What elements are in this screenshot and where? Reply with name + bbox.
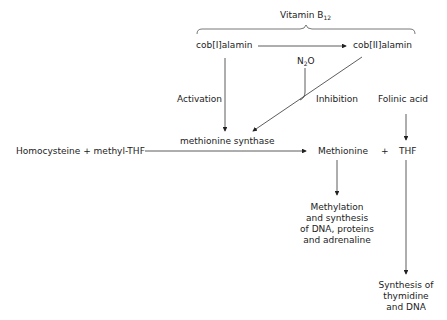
folinic-acid-label: Folinic acid [378,94,428,105]
inhibition-label: Inhibition [316,94,358,105]
vitamin-b12-subscript: 12 [324,14,332,21]
thymidine-outcome: Synthesis of thymidine and DNA [370,280,442,313]
thf-label: THF [399,146,416,157]
cob1-alamin: cob[I]alamin [196,40,252,51]
plus-sign: + [381,146,389,157]
vitamin-b12-text: Vitamin B [280,10,324,20]
cob2-alamin: cob[II]alamin [353,40,412,51]
n2o-o: O [308,56,315,66]
methionine-label: Methionine [318,146,368,157]
n2o-label: N2O [297,56,315,67]
thymidine-line-3: and DNA [370,302,442,313]
n2o-n: N [297,56,304,66]
thymidine-line-2: thymidine [370,291,442,302]
methylation-line-1: Methylation [290,202,384,213]
substrate-label: Homocysteine + methyl-THF [16,146,145,157]
methylation-line-4: and adrenaline [290,235,384,246]
vitamin-b12-brace [197,25,415,34]
activation-label: Activation [177,94,222,105]
n2o-connector [300,68,305,100]
enzyme-label: methionine synthase [180,136,275,147]
methylation-outcome: Methylation and synthesis of DNA, protei… [290,202,384,246]
vitamin-b12-label: Vitamin B12 [280,10,331,21]
methylation-line-3: of DNA, proteins [290,224,384,235]
thymidine-line-1: Synthesis of [370,280,442,291]
methylation-line-2: and synthesis [290,213,384,224]
